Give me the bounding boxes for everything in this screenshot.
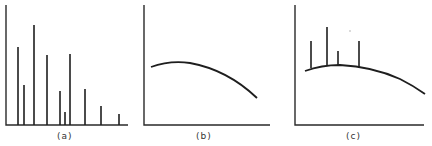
panel-c-sticks [311,27,359,68]
panel-b-curve [151,62,257,98]
panel-b [144,5,270,125]
panel-a-sticks [18,25,119,125]
panel-c [295,5,425,125]
panel-b-label: (b) [196,131,212,141]
speck [349,30,351,32]
panel-c-label: (c) [346,131,361,141]
panel-b-axes [144,5,270,125]
panel-a [6,5,128,125]
panel-a-label: (a) [57,131,73,141]
figure-canvas [0,0,432,146]
panel-c-curve [305,65,425,94]
